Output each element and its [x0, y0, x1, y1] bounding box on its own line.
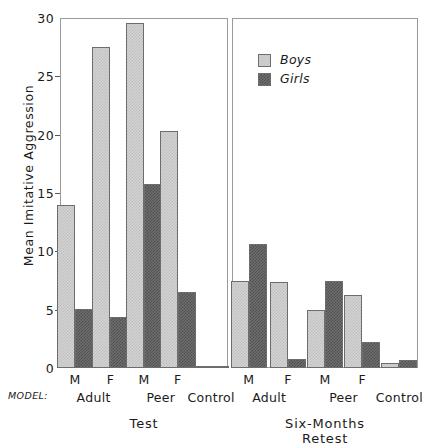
- bar-boys: [344, 295, 362, 369]
- y-tick-label: 0: [28, 361, 54, 376]
- x-tick-sex-label: M: [69, 372, 80, 387]
- bar-girls: [249, 244, 267, 368]
- bar-boys: [92, 47, 110, 368]
- y-tick-label: 10: [28, 244, 54, 259]
- bar-girls: [325, 281, 343, 369]
- bar-boys: [126, 23, 144, 368]
- bar-boys: [193, 366, 211, 368]
- bar-girls: [211, 366, 229, 368]
- y-tick-label: 25: [28, 69, 54, 84]
- x-group-label: Control: [376, 390, 423, 405]
- bar-boys: [270, 282, 288, 368]
- bar-girls: [362, 342, 380, 368]
- x-tick-sex-label: F: [359, 372, 366, 387]
- bar-girls: [399, 360, 417, 368]
- y-tick-label: 5: [28, 302, 54, 317]
- y-tick-label: 20: [28, 127, 54, 142]
- bar-girls: [178, 292, 196, 368]
- x-tick-sex-label: F: [174, 372, 181, 387]
- x-tick-sex-label: M: [139, 372, 150, 387]
- x-group-label: Adult: [252, 390, 286, 405]
- panel-title: Six-Months Retest: [275, 416, 376, 446]
- x-tick-sex-label: M: [243, 372, 254, 387]
- legend-swatch-boys: [258, 54, 271, 67]
- bar-boys: [381, 363, 399, 368]
- legend-label-boys: Boys: [280, 52, 311, 67]
- x-group-label: Peer: [146, 390, 175, 405]
- bar-boys: [160, 131, 178, 368]
- x-tick-sex-label: F: [107, 372, 114, 387]
- bar-girls: [75, 309, 93, 369]
- y-axis-title: Mean Imitative Aggression: [21, 56, 36, 296]
- x-group-label: Control: [188, 390, 235, 405]
- x-tick-sex-label: F: [284, 372, 291, 387]
- panel-title: Test: [130, 416, 159, 431]
- bar-boys: [307, 310, 325, 368]
- legend-label-girls: Girls: [280, 71, 310, 86]
- bar-boys: [231, 281, 249, 369]
- x-group-label: Peer: [329, 390, 358, 405]
- bar-boys: [57, 205, 75, 368]
- y-tick-label: 30: [28, 11, 54, 26]
- model-axis-label: MODEL:: [8, 390, 48, 401]
- bar-girls: [288, 359, 306, 368]
- x-tick-sex-label: M: [320, 372, 331, 387]
- legend-swatch-girls: [258, 73, 271, 86]
- x-group-label: Adult: [77, 390, 111, 405]
- y-tick-label: 15: [28, 186, 54, 201]
